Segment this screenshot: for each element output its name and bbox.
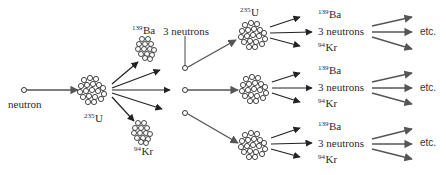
branch-2-neutrons-label: 3 neutrons [318,82,364,93]
u235-nucleus-initial [77,75,106,104]
mass-number: 235 [84,112,95,120]
branch-1-neutrons-label: 3 neutrons [318,26,364,37]
element-symbol: Ba [143,24,155,36]
u235-nucleus-branch-2 [239,74,268,103]
branch-3-neutrons-label: 3 neutrons [318,138,364,149]
element-symbol: Ba [329,120,341,132]
u235-nucleus-branch-3 [238,130,267,159]
branch-2-kr-label: 94Kr [318,98,337,109]
ba139-label-initial: 139Ba [132,25,155,36]
branch-1-etc-label: etc. [420,27,436,37]
ba139-nucleus-initial [136,37,157,62]
u235-label-initial: 235U [84,113,103,124]
branch-1-ba-label: 139Ba [318,9,341,20]
three-neutrons-label-initial: 3 neutrons [163,26,209,37]
mass-number: 94 [318,41,325,49]
element-symbol: Kr [142,145,154,157]
kr94-nucleus-initial [132,121,153,146]
continuation-arrows [372,17,412,159]
branch-2-etc-label: etc. [420,83,436,93]
element-symbol: Kr [326,153,338,165]
mass-number: 139 [318,8,329,16]
three-neutrons-initial [183,36,239,143]
element-symbol: Kr [326,41,338,53]
mass-number: 94 [318,97,325,105]
element-symbol: Kr [326,97,338,109]
mass-number: 235 [240,6,251,14]
branch-3-ba-label: 139Ba [318,121,341,132]
element-symbol: U [251,6,259,18]
fission-arrows-initial [112,62,170,121]
neutron-label: neutron [8,99,42,110]
mass-number: 139 [318,120,329,128]
element-symbol: Ba [329,64,341,76]
mass-number: 139 [318,64,329,72]
branch-3-etc-label: etc. [420,138,436,148]
incoming-neutron [22,88,79,93]
mass-number: 139 [132,24,143,32]
mass-number: 94 [134,145,141,153]
branch-1-kr-label: 94Kr [318,42,337,53]
branch-3-kr-label: 94Kr [318,154,337,165]
mass-number: 94 [318,153,325,161]
branch-2-ba-label: 139Ba [318,65,341,76]
u235-nucleus-branch-1 [238,20,267,49]
element-symbol: Ba [329,8,341,20]
kr94-label-initial: 94Kr [134,146,153,157]
u235-label-second: 235U [240,7,259,18]
element-symbol: U [95,112,103,124]
branch-arrows [270,17,312,157]
chain-reaction-diagram [0,0,446,175]
